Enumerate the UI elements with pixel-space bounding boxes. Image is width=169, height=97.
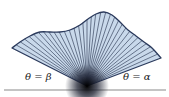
label-theta-beta: θ = β [25, 71, 52, 82]
label-theta-alpha: θ = α [123, 71, 151, 82]
polar-region-diagram: θ = β θ = α [0, 0, 169, 97]
